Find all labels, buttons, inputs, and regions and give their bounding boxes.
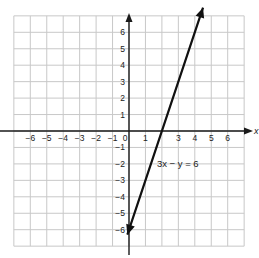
x-axis-label: x bbox=[253, 126, 259, 136]
x-tick-label: −5 bbox=[42, 133, 52, 143]
x-tick-label: 4 bbox=[192, 133, 197, 143]
y-tick-label: 6 bbox=[120, 27, 125, 37]
y-tick-label: −5 bbox=[115, 208, 125, 218]
y-tick-label: −2 bbox=[115, 159, 125, 169]
x-tick-label: 5 bbox=[209, 133, 214, 143]
x-tick-label: −3 bbox=[75, 133, 85, 143]
y-tick-label: −6 bbox=[115, 225, 125, 235]
x-tick-label: −6 bbox=[25, 133, 35, 143]
x-tick-label: 1 bbox=[143, 133, 148, 143]
arrowhead-icon bbox=[196, 8, 205, 19]
x-tick-label: 3 bbox=[176, 133, 181, 143]
equation-label: 3x − y = 6 bbox=[157, 158, 199, 169]
y-tick-label: 3 bbox=[120, 77, 125, 87]
graph-line bbox=[126, 8, 204, 235]
y-tick-label: −3 bbox=[115, 175, 125, 185]
x-tick-label: −4 bbox=[58, 133, 68, 143]
coordinate-plane: −6−5−4−3−2−1013456654321−1−2−3−4−5−6 3x … bbox=[0, 0, 259, 258]
y-tick-label: −4 bbox=[115, 192, 125, 202]
y-tick-label: 2 bbox=[120, 93, 125, 103]
y-tick-label: 5 bbox=[120, 44, 125, 54]
y-tick-label: 4 bbox=[120, 60, 125, 70]
x-tick-label: 6 bbox=[225, 133, 230, 143]
arrowhead-icon bbox=[126, 224, 135, 235]
y-tick-label: −1 bbox=[115, 142, 125, 152]
y-tick-label: 1 bbox=[120, 110, 125, 120]
x-tick-label: −2 bbox=[91, 133, 101, 143]
